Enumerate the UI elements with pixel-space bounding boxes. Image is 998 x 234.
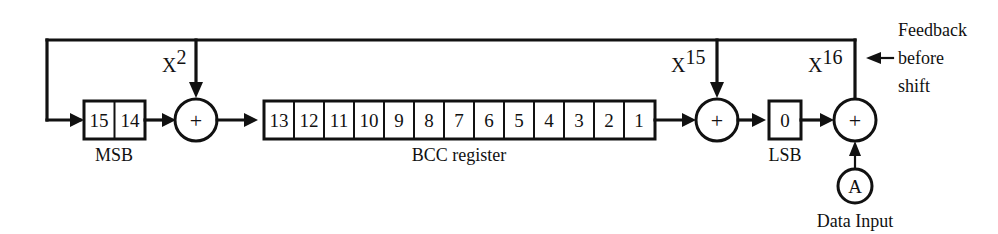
msb-label: MSB bbox=[95, 145, 133, 165]
bcc-cell-10: 10 bbox=[360, 110, 379, 131]
bcc-cell-13: 13 bbox=[270, 110, 289, 131]
bcc-cell-3: 3 bbox=[574, 110, 584, 131]
msb-cell-14: 14 bbox=[121, 110, 141, 131]
bcc-cell-7: 7 bbox=[454, 110, 464, 131]
data-input-label: Data Input bbox=[817, 211, 893, 231]
tap-x16-base: X bbox=[808, 54, 823, 76]
tap-x15-exponent: 15 bbox=[685, 46, 705, 68]
lsb-cell-0: 0 bbox=[780, 110, 790, 131]
tap-x16-exponent: 16 bbox=[822, 46, 842, 68]
bcc-cell-12: 12 bbox=[300, 110, 319, 131]
wire-adder-x15-to-lsb bbox=[738, 113, 766, 127]
wire-adder-x2-to-bcc bbox=[217, 113, 258, 127]
crc-shift-register-diagram: 15 14 MSB 13 12 11 10 9 8 7 6 5 4 3 2 1 … bbox=[0, 0, 998, 234]
data-input-node: A bbox=[848, 176, 862, 197]
bcc-register-label: BCC register bbox=[412, 145, 507, 165]
bcc-cell-11: 11 bbox=[330, 110, 348, 131]
bcc-cell-8: 8 bbox=[424, 110, 434, 131]
tap-x2-label: X2 bbox=[162, 46, 186, 76]
msb-cell-15: 15 bbox=[90, 110, 109, 131]
tap-x15-label: X15 bbox=[671, 46, 705, 76]
wire-bcc-to-adder-x15 bbox=[655, 113, 696, 127]
tap-drop-x2 bbox=[189, 40, 203, 98]
wire-msb-to-adder-x2 bbox=[145, 113, 176, 127]
bcc-cell-5: 5 bbox=[514, 110, 524, 131]
bcc-cell-6: 6 bbox=[484, 110, 494, 131]
lsb-label: LSB bbox=[768, 145, 801, 165]
adder-x15-symbol: + bbox=[711, 108, 723, 133]
wire-lsb-to-adder-x16 bbox=[801, 113, 834, 127]
tap-x16-label: X16 bbox=[808, 46, 842, 76]
feedback-note-arrow bbox=[866, 52, 893, 64]
bcc-cell-2: 2 bbox=[604, 110, 614, 131]
feedback-note-line1: Feedback bbox=[898, 20, 967, 40]
feedback-note-line3: shift bbox=[898, 76, 930, 96]
tap-drop-x15 bbox=[710, 40, 724, 98]
adder-x16-symbol: + bbox=[849, 108, 861, 133]
feedback-note-line2: before bbox=[898, 48, 944, 68]
tap-x2-exponent: 2 bbox=[176, 46, 186, 68]
bcc-cell-1: 1 bbox=[634, 110, 644, 131]
diagram-canvas: 15 14 MSB 13 12 11 10 9 8 7 6 5 4 3 2 1 … bbox=[0, 0, 998, 234]
tap-x15-base: X bbox=[671, 54, 686, 76]
adder-x2-symbol: + bbox=[190, 108, 202, 133]
bcc-cell-4: 4 bbox=[544, 110, 554, 131]
tap-x2-base: X bbox=[162, 54, 177, 76]
bcc-cell-9: 9 bbox=[394, 110, 404, 131]
